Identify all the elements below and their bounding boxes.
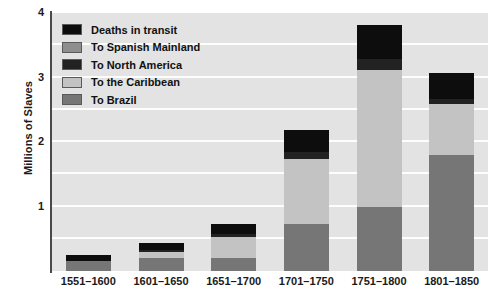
- bar-segment: [211, 237, 256, 258]
- legend-item: To North America: [62, 57, 242, 72]
- x-axis-tick-label: 1751–1800: [343, 275, 416, 287]
- legend-swatch-icon: [62, 94, 82, 105]
- x-axis-tick-label: 1601–1650: [125, 275, 198, 287]
- x-axis-tick-label: 1551–1600: [52, 275, 125, 287]
- legend-item-label: To Brazil: [91, 94, 137, 106]
- bar-segment: [284, 159, 329, 224]
- bar: [139, 243, 184, 271]
- bar-segment: [284, 152, 329, 160]
- x-axis-tick-labels: 1551–16001601–16501651–17001701–17501751…: [52, 275, 488, 295]
- legend-item-label: Deaths in transit: [91, 24, 177, 36]
- legend-swatch-icon: [62, 77, 82, 88]
- stacked-bar-chart: Millions of Slaves 1234 1551–16001601–16…: [0, 0, 495, 303]
- bar-segment: [357, 25, 402, 59]
- legend-swatch-icon: [62, 24, 82, 35]
- bar-segment: [211, 258, 256, 271]
- bar-segment: [429, 155, 474, 271]
- x-axis-tick-label: 1651–1700: [197, 275, 270, 287]
- legend-item: To Brazil: [62, 92, 242, 107]
- bar-segment: [66, 261, 111, 271]
- bar: [357, 25, 402, 271]
- x-axis-tick-label: 1801–1850: [415, 275, 488, 287]
- y-axis-tick-label: 2: [22, 136, 44, 147]
- legend-swatch-icon: [62, 42, 82, 53]
- legend-item-label: To North America: [91, 59, 182, 71]
- bar-segment: [139, 258, 184, 271]
- legend-swatch-icon: [62, 59, 82, 70]
- bar: [429, 73, 474, 271]
- chart-legend: Deaths in transitTo Spanish MainlandTo N…: [62, 22, 242, 110]
- y-axis-tick-label: 4: [22, 7, 44, 18]
- bar-segment: [211, 224, 256, 234]
- bar: [211, 224, 256, 271]
- bar-segment: [139, 243, 184, 250]
- bar-segment: [357, 207, 402, 272]
- legend-item-label: To Spanish Mainland: [91, 41, 200, 53]
- bar-segment: [357, 59, 402, 70]
- bar-segment: [284, 130, 329, 152]
- bar: [284, 130, 329, 271]
- bar: [66, 255, 111, 271]
- legend-item: To the Caribbean: [62, 75, 242, 90]
- x-axis-tick-label: 1701–1750: [270, 275, 343, 287]
- bar-segment: [357, 70, 402, 207]
- legend-item: To Spanish Mainland: [62, 40, 242, 55]
- y-axis-tick-label: 1: [22, 201, 44, 212]
- y-axis-tick-labels: 1234: [22, 0, 44, 303]
- bar-segment: [429, 73, 474, 99]
- bar-segment: [284, 224, 329, 271]
- legend-item: Deaths in transit: [62, 22, 242, 37]
- y-axis-tick-label: 3: [22, 72, 44, 83]
- legend-item-label: To the Caribbean: [91, 76, 180, 88]
- bar-segment: [429, 104, 474, 155]
